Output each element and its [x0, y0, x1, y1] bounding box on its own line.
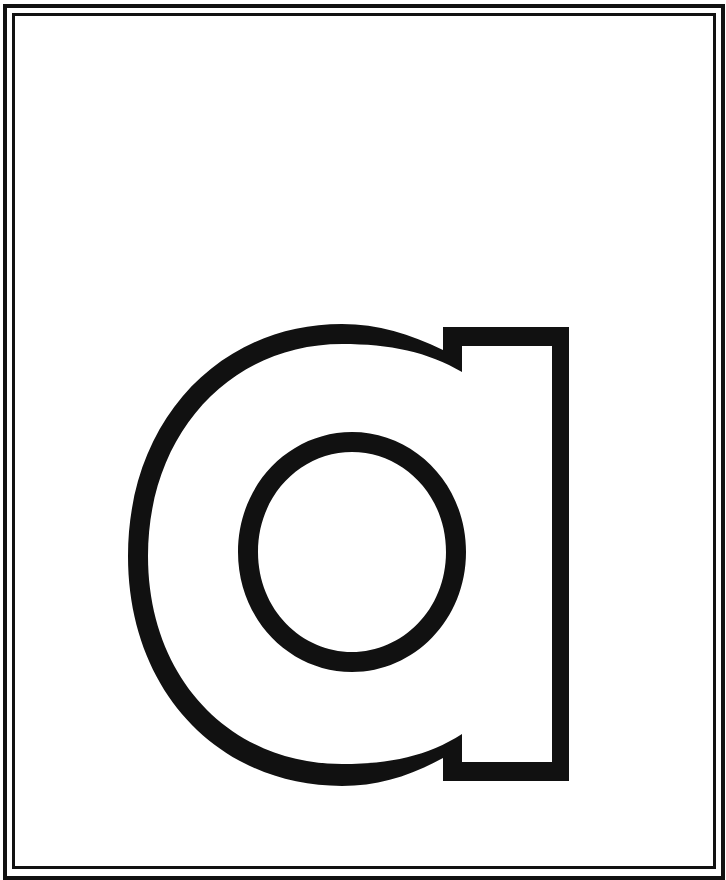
coloring-page: [0, 0, 726, 880]
letter-a-outline: [0, 0, 726, 880]
